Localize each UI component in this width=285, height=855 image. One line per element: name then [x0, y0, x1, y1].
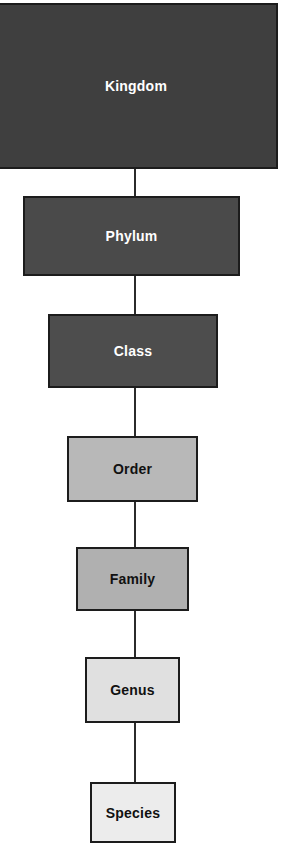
rank-label-family: Family [110, 572, 156, 586]
rank-node-kingdom[interactable]: Kingdom [0, 3, 278, 169]
rank-label-species: Species [106, 806, 160, 820]
rank-label-genus: Genus [110, 683, 155, 697]
connector-class-to-order [134, 388, 136, 436]
connector-phylum-to-class [134, 276, 136, 314]
rank-node-phylum[interactable]: Phylum [23, 196, 240, 276]
connector-order-to-family [134, 502, 136, 547]
rank-node-order[interactable]: Order [67, 436, 198, 502]
connector-genus-to-species [134, 723, 136, 782]
taxonomy-hierarchy-diagram: Kingdom Phylum Class Order Family Genus … [0, 0, 285, 855]
rank-node-species[interactable]: Species [90, 782, 176, 843]
rank-label-kingdom: Kingdom [105, 79, 167, 93]
connector-family-to-genus [134, 611, 136, 657]
rank-node-genus[interactable]: Genus [85, 657, 180, 723]
rank-label-phylum: Phylum [106, 229, 158, 243]
rank-node-class[interactable]: Class [48, 314, 218, 388]
rank-node-family[interactable]: Family [76, 547, 189, 611]
connector-kingdom-to-phylum [134, 169, 136, 196]
rank-label-class: Class [114, 344, 152, 358]
rank-label-order: Order [113, 462, 152, 476]
